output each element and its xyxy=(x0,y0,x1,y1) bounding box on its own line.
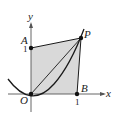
label-o: O xyxy=(20,94,28,106)
diagram: y x A 1 P B O 1 xyxy=(0,0,116,116)
point-o xyxy=(29,92,33,96)
x-tick-1: 1 xyxy=(75,97,80,107)
point-p xyxy=(79,36,83,40)
label-b: B xyxy=(81,82,88,94)
point-b xyxy=(75,92,79,96)
point-a xyxy=(29,46,33,50)
label-p: P xyxy=(83,28,91,40)
x-axis-label: x xyxy=(105,87,111,99)
y-axis-label: y xyxy=(27,10,33,22)
y-axis-arrow-icon xyxy=(29,22,33,28)
y-tick-1: 1 xyxy=(23,44,28,54)
